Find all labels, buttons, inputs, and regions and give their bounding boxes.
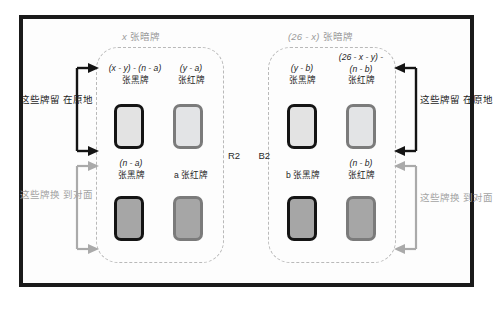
right-bottom-annotation-line1: 这些牌换 bbox=[420, 192, 460, 203]
left-top-annotation-line1: 这些牌留 bbox=[20, 94, 60, 105]
left-bottom-black-label: (n - a) 张黑牌 bbox=[99, 158, 163, 181]
right-top-annotation: 这些牌留 在原地 bbox=[420, 93, 472, 106]
left-bottom-red-card bbox=[173, 196, 203, 241]
left-bottom-annotation-line2: 到对面 bbox=[63, 189, 93, 200]
right-bottom-red-label: (n - b) 张红牌 bbox=[331, 158, 391, 181]
left-group-caption-text: 张暗牌 bbox=[127, 31, 160, 42]
right-group-caption: (26 - x) 张暗牌 bbox=[288, 29, 353, 43]
left-top-bracket-arrow bbox=[72, 62, 100, 157]
left-top-red-card bbox=[173, 104, 203, 149]
right-bottom-annotation-line2: 到对面 bbox=[463, 192, 493, 203]
left-top-red-label-line2: 张红牌 bbox=[163, 75, 219, 87]
left-bottom-annotation-line1: 这些牌换 bbox=[20, 189, 60, 200]
right-top-red-label: (26 - x - y) - (n - b) 张红牌 bbox=[327, 52, 395, 87]
right-bottom-red-label-line1: (n - b) bbox=[331, 158, 391, 170]
left-top-black-card bbox=[114, 104, 144, 149]
left-top-annotation-line2: 在原地 bbox=[63, 94, 93, 105]
right-top-red-label-line2: (n - b) bbox=[327, 64, 395, 76]
right-top-black-card bbox=[287, 104, 317, 149]
left-bottom-red-label-line2: a 张红牌 bbox=[161, 170, 221, 182]
right-bottom-black-label-line2: b 张黑牌 bbox=[272, 170, 334, 182]
left-bottom-black-label-line2: 张黑牌 bbox=[99, 170, 163, 182]
label-r2: R2 bbox=[228, 150, 240, 161]
right-top-red-label-line1: (26 - x - y) - bbox=[327, 52, 395, 64]
left-top-annotation: 这些牌留 在原地 bbox=[20, 93, 72, 106]
left-top-black-label: (x - y) - (n - a) 张黑牌 bbox=[99, 63, 171, 86]
left-top-black-label-line2: 张黑牌 bbox=[99, 75, 171, 87]
left-top-red-label-line1: (y - a) bbox=[163, 63, 219, 75]
right-bottom-black-label: b 张黑牌 bbox=[272, 170, 334, 182]
right-top-red-label-line3: 张红牌 bbox=[327, 75, 395, 87]
right-group-caption-var: (26 - x) bbox=[288, 31, 320, 42]
right-bottom-red-label-line2: 张红牌 bbox=[331, 170, 391, 182]
right-top-black-label-line1: (y - b) bbox=[274, 63, 330, 75]
left-bottom-red-label: a 张红牌 bbox=[161, 170, 221, 182]
right-bottom-black-card bbox=[287, 196, 317, 241]
left-bottom-annotation: 这些牌换 到对面 bbox=[20, 188, 72, 201]
right-bottom-annotation: 这些牌换 到对面 bbox=[420, 191, 472, 204]
right-top-annotation-line2: 在原地 bbox=[463, 94, 493, 105]
diagram-canvas: x 张暗牌 (x - y) - (n - a) 张黑牌 (y - a) 张红牌 … bbox=[0, 0, 493, 311]
left-top-red-label: (y - a) 张红牌 bbox=[163, 63, 219, 86]
left-top-black-label-line1: (x - y) - (n - a) bbox=[99, 63, 171, 75]
right-bottom-red-card bbox=[346, 196, 376, 241]
center-region-labels: R2 B2 bbox=[228, 150, 270, 161]
label-b2: B2 bbox=[258, 150, 270, 161]
left-group-caption: x 张暗牌 bbox=[122, 29, 160, 43]
right-top-black-label-line2: 张黑牌 bbox=[274, 75, 330, 87]
right-bottom-bracket-arrow bbox=[393, 160, 421, 255]
left-bottom-black-label-line1: (n - a) bbox=[99, 158, 163, 170]
left-bottom-bracket-arrow bbox=[72, 160, 100, 255]
right-top-red-card bbox=[346, 104, 376, 149]
left-bottom-black-card bbox=[114, 196, 144, 241]
right-top-black-label: (y - b) 张黑牌 bbox=[274, 63, 330, 86]
right-top-annotation-line1: 这些牌留 bbox=[420, 94, 460, 105]
right-top-bracket-arrow bbox=[393, 62, 421, 157]
right-group-caption-text: 张暗牌 bbox=[320, 31, 353, 42]
